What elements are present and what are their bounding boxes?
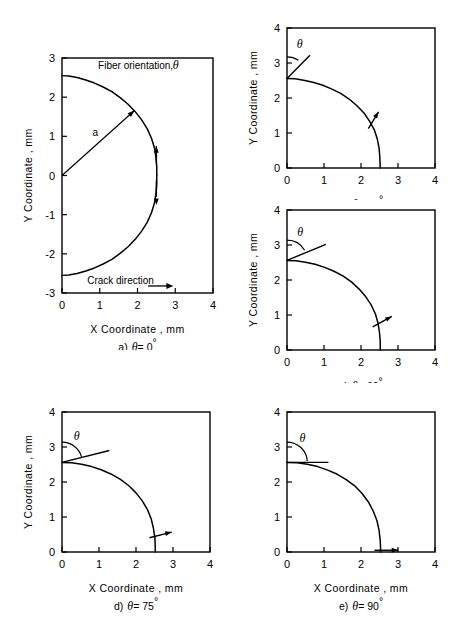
caption-degree: ° <box>154 595 158 607</box>
series-crack-front <box>287 260 380 350</box>
y-tick-label: 0 <box>274 344 280 356</box>
panel-c-plot-frame <box>287 210 435 350</box>
series-crack-front <box>287 78 380 168</box>
y-tick-label: 0 <box>274 162 280 174</box>
theta-symbol: θ <box>297 225 303 239</box>
y-tick-label: 3 <box>49 441 55 453</box>
panel-b: 0123401234θY Coordinate , mmb) = 30θ° <box>240 0 460 200</box>
panel-c: 0123401234θY Coordinate , mmc) = 60θ° <box>240 178 460 383</box>
x-tick-label: 3 <box>395 356 401 368</box>
panel-d-canvas: 0123401234θX Coordinate , mmY Coordinate… <box>0 390 240 633</box>
fiber-orientation-title: Fiber orientation,θ <box>98 58 179 72</box>
x-tick-label: 1 <box>96 558 102 570</box>
y-tick-label: 3 <box>49 52 55 64</box>
caption-value: = 75 <box>133 600 154 612</box>
series-crack-front-upper <box>62 76 157 176</box>
y-tick-label: 4 <box>274 406 280 418</box>
x-axis-label: X Coordinate , mm <box>90 323 184 335</box>
panel-e: 0123401234θX Coordinate , mme) = 90θ° <box>240 390 460 633</box>
x-tick-label: 4 <box>210 299 216 311</box>
caption-value: = 0 <box>138 341 153 350</box>
y-tick-label: -3 <box>45 287 55 299</box>
y-tick-label: 1 <box>274 127 280 139</box>
y-tick-label: 2 <box>49 91 55 103</box>
y-tick-label: 0 <box>49 546 55 558</box>
y-tick-label: 4 <box>49 406 55 418</box>
fiber-tick-arrowhead <box>385 316 392 321</box>
x-axis-label: X Coordinate , mm <box>89 582 183 594</box>
panel-caption: e) = 90θ° <box>339 595 383 613</box>
caption-theta-symbol: θ <box>127 599 133 613</box>
x-tick-label: 2 <box>134 299 140 311</box>
x-tick-label: 4 <box>207 558 213 570</box>
x-axis-label: X Coordinate , mm <box>314 582 408 594</box>
x-tick-label: 4 <box>432 558 438 570</box>
y-axis-label: Y Coordinate , mm <box>22 128 34 222</box>
panel-a-plot-frame <box>62 58 213 293</box>
series-crack-front <box>62 462 155 552</box>
panel-a: 01234-3-2-10123Fiber orientation,θaCrack… <box>0 0 240 350</box>
y-tick-label: 2 <box>274 274 280 286</box>
theta-symbol: θ <box>173 58 179 72</box>
x-tick-label: 3 <box>395 558 401 570</box>
x-tick-label: 2 <box>358 356 364 368</box>
panel-c-canvas: 0123401234θY Coordinate , mmc) = 60θ° <box>240 178 460 383</box>
fiber-tick-arrowhead <box>165 531 172 536</box>
theta-ray <box>287 55 310 78</box>
caption-degree: ° <box>379 375 383 383</box>
fiber-orientation-label: Fiber orientation, <box>98 60 173 71</box>
panel-b-canvas: 0123401234θY Coordinate , mmb) = 30θ° <box>240 0 460 200</box>
theta-symbol: θ <box>297 37 303 51</box>
panel-a-canvas: 01234-3-2-10123Fiber orientation,θaCrack… <box>0 0 240 350</box>
caption-theta-symbol: θ <box>132 340 138 350</box>
y-axis-label: Y Coordinate , mm <box>247 51 259 145</box>
y-axis-label: Y Coordinate , mm <box>22 435 34 529</box>
x-tick-label: 0 <box>59 558 65 570</box>
caption-degree: ° <box>152 336 156 348</box>
radius-line <box>62 110 134 175</box>
series-crack-front <box>287 462 381 552</box>
theta-arc <box>287 57 298 60</box>
y-tick-label: -2 <box>45 248 55 260</box>
figure-crack-front-profiles: 01234-3-2-10123Fiber orientation,θaCrack… <box>0 0 460 633</box>
x-tick-label: 1 <box>321 356 327 368</box>
y-tick-label: 3 <box>274 239 280 251</box>
caption-value: = 60 <box>358 380 379 383</box>
theta-symbol: θ <box>74 429 80 443</box>
caption-theta-symbol: θ <box>352 379 358 383</box>
crack-direction-arrowhead <box>166 283 173 289</box>
y-tick-label: 0 <box>274 546 280 558</box>
x-tick-label: 2 <box>358 558 364 570</box>
x-tick-label: 0 <box>284 558 290 570</box>
radius-label: a <box>92 127 98 138</box>
caption-prefix: d) <box>114 600 123 612</box>
panel-caption: d) = 75θ° <box>114 595 158 613</box>
y-tick-label: 1 <box>49 511 55 523</box>
y-tick-label: 0 <box>49 170 55 182</box>
crack-direction-label: Crack direction <box>87 275 154 286</box>
theta-ray <box>62 451 109 463</box>
caption-theta-symbol: θ <box>352 599 358 613</box>
series-crack-front-lower <box>62 176 157 276</box>
y-tick-label: 2 <box>49 476 55 488</box>
caption-prefix: c) <box>339 380 348 383</box>
panel-caption: a) = 0θ° <box>118 336 156 350</box>
panel-d-plot-frame <box>62 412 210 552</box>
x-tick-label: 2 <box>133 558 139 570</box>
caption-prefix: e) <box>339 600 348 612</box>
y-tick-label: 1 <box>274 511 280 523</box>
y-tick-label: 3 <box>274 57 280 69</box>
panel-d: 0123401234θX Coordinate , mmY Coordinate… <box>0 390 240 633</box>
x-tick-label: 0 <box>284 356 290 368</box>
y-axis-label: Y Coordinate , mm <box>247 233 259 327</box>
theta-arc <box>62 442 82 457</box>
y-tick-label: 4 <box>274 204 280 216</box>
caption-value: = 90 <box>358 600 379 612</box>
caption-prefix: a) <box>118 341 127 350</box>
x-tick-label: 0 <box>59 299 65 311</box>
y-tick-label: -1 <box>45 209 55 221</box>
y-tick-label: 1 <box>49 130 55 142</box>
y-tick-label: 1 <box>274 309 280 321</box>
panel-e-canvas: 0123401234θX Coordinate , mme) = 90θ° <box>240 390 460 633</box>
panel-e-plot-frame <box>287 412 435 552</box>
